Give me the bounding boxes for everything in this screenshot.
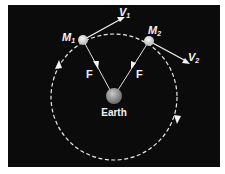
label-f1: F — [86, 68, 93, 80]
label-v2: V2 — [188, 51, 199, 64]
label-v1: V1 — [119, 6, 130, 19]
label-m1: M1 — [62, 31, 75, 44]
earth — [106, 88, 122, 104]
orbit-direction-arrow-left — [55, 60, 62, 69]
label-f2: F — [136, 68, 143, 80]
orbit-direction-arrow-right — [174, 115, 181, 124]
velocity-line-1 — [83, 19, 121, 40]
label-m2: M2 — [148, 24, 161, 37]
velocity-line-2 — [149, 41, 186, 61]
moon-m1 — [78, 35, 88, 45]
moon-m2 — [144, 36, 154, 46]
orbit-diagram: M1 M2 V1 V2 F F Earth — [0, 0, 225, 174]
label-earth: Earth — [101, 107, 127, 118]
force-arrow-1-icon — [93, 61, 99, 69]
